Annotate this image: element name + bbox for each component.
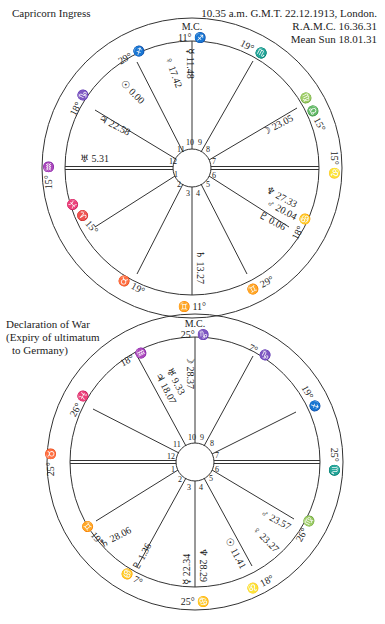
planet-mercury: ☿ 11.48 bbox=[185, 48, 196, 79]
chart1-cusp-2 bbox=[95, 176, 175, 227]
chart1-ic-value: ♊ 11° bbox=[178, 300, 206, 313]
house-10: 10 bbox=[186, 138, 194, 147]
house-10: 10 bbox=[188, 433, 196, 442]
house-1: 1 bbox=[174, 170, 178, 179]
house-3: 3 bbox=[186, 189, 190, 198]
house-7: 7 bbox=[215, 451, 219, 460]
asc-sign: 25° ♉ bbox=[44, 448, 57, 477]
desc-sign: 25° ♏ bbox=[328, 448, 341, 477]
chart1-cusp-3 bbox=[137, 184, 183, 274]
house-2: 2 bbox=[177, 180, 181, 189]
chart2-cusp-6 bbox=[212, 470, 294, 519]
house-7: 7 bbox=[212, 157, 216, 166]
planet-neptune: ♆ 28.29 bbox=[198, 548, 209, 582]
planet-moon: ☽ 23.05 bbox=[260, 112, 295, 138]
asc-sign: 15° ♒ bbox=[42, 161, 55, 190]
cusp-5-sign: ♊ 29° bbox=[245, 272, 276, 297]
planet-saturn: ♄ 13.27 bbox=[195, 250, 206, 284]
chart2-mc-value: 25° ♑ bbox=[181, 328, 210, 341]
planet-venus: ♀ 17.42 bbox=[163, 55, 184, 89]
planet-jupiter: ♃ 22.58 bbox=[97, 112, 132, 138]
chart1-planets: ☿ 11.48 ♀ 17.42 ☉ 0.00 ♃ 22.58 ♅ 5.31 ☽ … bbox=[80, 48, 299, 284]
cusp-3-sign: ♉ 19° bbox=[116, 272, 147, 297]
cusp-5-sign: ♌ 18° bbox=[245, 571, 276, 596]
chart1-mc-value: 11° ♐ bbox=[178, 31, 206, 44]
cusp-12-sign: 26° ♓ bbox=[66, 388, 91, 419]
house-2: 2 bbox=[178, 475, 182, 484]
chart1-cusp-5 bbox=[201, 184, 247, 274]
planet-uranus: ♅ 5.31 bbox=[80, 153, 109, 164]
planet-mercury: ☿ 22.34 bbox=[181, 554, 192, 585]
chart2-cusp-8 bbox=[212, 412, 296, 454]
house-4: 4 bbox=[199, 483, 203, 492]
cusp-9-sign: 19° ♏ bbox=[238, 36, 269, 61]
chart2-ic-value: 25° ♋ bbox=[181, 595, 210, 608]
chart2-cusp-2 bbox=[96, 470, 178, 521]
cusp-8-sign: ♍ ♎ 15° bbox=[297, 89, 329, 133]
chart2-house-numbers: 10 9 8 7 6 5 4 3 2 1 12 11 bbox=[167, 433, 219, 492]
house-12: 12 bbox=[167, 452, 175, 461]
planet-sun: ☉ 0.00 bbox=[119, 78, 147, 106]
planet-pluto: ♇ 1.36 bbox=[130, 541, 153, 572]
house-3: 3 bbox=[187, 483, 191, 492]
house-6: 6 bbox=[212, 171, 216, 180]
house-11: 11 bbox=[177, 145, 185, 154]
desc-sign: 15° ♌ bbox=[328, 151, 341, 180]
chart2-mc-label: M.C. bbox=[185, 318, 206, 329]
cusp-11-sign: 29° ♐ bbox=[116, 42, 147, 67]
house-8: 8 bbox=[206, 145, 210, 154]
cusp-6-sign: 26° ♍ bbox=[292, 513, 317, 544]
planet-moon: ☽ 28.37 bbox=[185, 355, 196, 389]
cusp-11-sign: 18° ♒ bbox=[118, 344, 149, 369]
planet-venus: ♀ 23.27 bbox=[251, 524, 282, 555]
chart2-cusp-5 bbox=[204, 478, 252, 566]
cusp-9-sign: 7° ♑ bbox=[246, 341, 273, 364]
chart1-mc-label: M.C. bbox=[182, 21, 203, 32]
charts-canvas: 10 9 8 7 6 5 4 3 2 1 12 11 M.C. 11° ♐ ♊ … bbox=[0, 0, 385, 624]
house-8: 8 bbox=[210, 439, 214, 448]
house-5: 5 bbox=[209, 474, 213, 483]
house-6: 6 bbox=[215, 465, 219, 474]
house-4: 4 bbox=[196, 189, 200, 198]
house-1: 1 bbox=[171, 465, 175, 474]
cusp-12-sign: 18° ♑ bbox=[66, 87, 91, 118]
house-11: 11 bbox=[173, 440, 181, 449]
house-5: 5 bbox=[206, 180, 210, 189]
cusp-2-sign: ♓ ♈ 15° bbox=[64, 195, 102, 236]
house-9: 9 bbox=[200, 433, 204, 442]
house-12: 12 bbox=[169, 157, 177, 166]
chart2-cusp-12 bbox=[93, 409, 179, 453]
planet-saturn: ♄ 28.06 bbox=[98, 524, 133, 550]
house-9: 9 bbox=[198, 138, 202, 147]
chart2-cusp-9 bbox=[204, 356, 253, 446]
